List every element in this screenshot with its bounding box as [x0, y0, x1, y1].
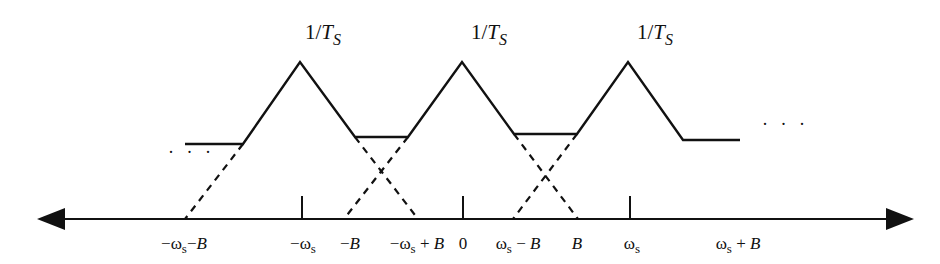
peak-label-neg-ws: 1/TS: [305, 22, 341, 43]
axis-label-neg-ws-plus-b: −ωs + B: [390, 235, 444, 252]
axis-label-neg-ws: −ωs: [290, 235, 316, 252]
arrow-left-icon: [37, 208, 65, 230]
aliased-spectrum-curve: [185, 62, 740, 144]
axis-label-ws-minus-b: ωs − B: [496, 235, 541, 252]
axis-label-neg-ws-minus-b: −ωs−B: [161, 235, 207, 252]
arrow-right-icon: [886, 208, 914, 230]
axis-label-b: B: [572, 235, 582, 252]
axis-label-zero: 0: [459, 235, 468, 252]
axis-label-ws-plus-b: ωs + B: [716, 235, 761, 252]
axis-label-ws: ωs: [624, 235, 640, 252]
ellipsis-left: · · ·: [168, 143, 215, 161]
peak-label-zero: 1/TS: [471, 22, 507, 43]
ellipsis-right: · · ·: [762, 115, 809, 133]
replica-edges-dashed: [185, 134, 578, 219]
peak-label-ws: 1/TS: [637, 22, 673, 43]
axis-label-neg-b: −B: [340, 235, 360, 252]
frequency-axis: [37, 196, 914, 230]
